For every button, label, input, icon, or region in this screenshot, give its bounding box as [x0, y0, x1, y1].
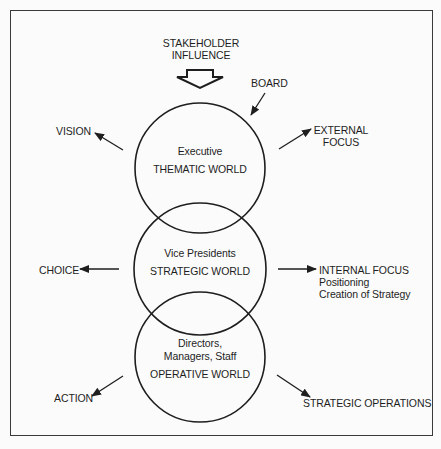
external-focus-line1: EXTERNAL — [311, 124, 371, 136]
thematic-role-label: Executive — [140, 145, 260, 157]
internal-focus-label: INTERNAL FOCUS Positioning Creation of S… — [319, 264, 410, 300]
thematic-world-label: THEMATIC WORLD — [140, 163, 260, 175]
operative-world-label: OPERATIVE WORLD — [140, 368, 260, 380]
external-focus-label: EXTERNAL FOCUS — [311, 124, 371, 148]
vision-arrow-icon — [95, 133, 123, 150]
stakeholder-label-line2: INFLUENCE — [160, 49, 242, 61]
external-focus-line2: FOCUS — [311, 136, 371, 148]
internal-focus-line3: Creation of Strategy — [319, 288, 410, 300]
external-focus-arrow-icon — [279, 129, 311, 149]
diagram-graphics — [0, 0, 441, 449]
choice-label: CHOICE — [39, 264, 79, 276]
strategic-operations-label: STRATEGIC OPERATIONS — [303, 397, 431, 409]
vision-label: VISION — [56, 125, 91, 137]
operative-role-line1: Directors, — [140, 337, 260, 349]
internal-focus-line1: INTERNAL FOCUS — [319, 264, 410, 276]
operative-role-line2: Managers, Staff — [140, 350, 260, 362]
action-label: ACTION — [54, 392, 93, 404]
stakeholder-influence-label: STAKEHOLDER INFLUENCE — [160, 37, 242, 61]
stakeholder-influence-arrow-icon — [177, 70, 223, 88]
strategic-role-label: Vice Presidents — [140, 247, 260, 259]
board-arrow-icon — [251, 93, 265, 115]
action-arrow-icon — [92, 376, 123, 396]
board-label: BOARD — [251, 77, 288, 89]
strategic-operations-arrow-icon — [277, 375, 310, 397]
strategic-world-label: STRATEGIC WORLD — [140, 265, 260, 277]
internal-focus-line2: Positioning — [319, 276, 410, 288]
stakeholder-label-line1: STAKEHOLDER — [160, 37, 242, 49]
